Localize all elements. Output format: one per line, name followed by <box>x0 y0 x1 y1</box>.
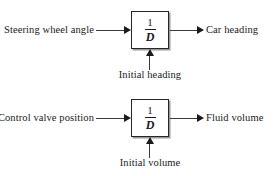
initial-condition-arrowhead-icon-valve <box>146 137 154 144</box>
transfer-function-fraction-steering: 1 D <box>145 17 156 43</box>
initial-condition-label-initial-heading: Initial heading <box>119 69 181 80</box>
output-label-car-heading: Car heading <box>206 24 258 35</box>
input-arrowhead-icon-valve <box>124 114 131 122</box>
diagram-group-steering: Steering wheel angle 1 D Car heading Ini… <box>0 0 278 88</box>
initial-condition-connector-line-steering <box>149 56 150 70</box>
input-label-control-valve-position: Control valve position <box>0 112 94 123</box>
block-diagram-canvas: Steering wheel angle 1 D Car heading Ini… <box>0 0 278 176</box>
output-arrowhead-icon-steering <box>197 26 204 34</box>
fraction-numerator-steering: 1 <box>147 17 153 29</box>
input-label-steering-wheel-angle: Steering wheel angle <box>4 24 94 35</box>
integrator-block-steering: 1 D <box>131 11 169 49</box>
diagram-group-valve: Control valve position 1 D Fluid volume … <box>0 88 278 176</box>
integrator-block-valve: 1 D <box>131 99 169 137</box>
input-connector-line-valve <box>96 118 127 119</box>
initial-condition-arrowhead-icon-steering <box>146 49 154 56</box>
output-connector-line-steering <box>170 30 200 31</box>
fraction-denominator-valve: D <box>146 118 155 131</box>
input-connector-line-steering <box>96 30 127 31</box>
transfer-function-fraction-valve: 1 D <box>145 105 156 131</box>
initial-condition-label-initial-volume: Initial volume <box>120 157 181 168</box>
fraction-denominator-steering: D <box>146 30 155 43</box>
output-connector-line-valve <box>170 118 200 119</box>
input-arrowhead-icon-steering <box>124 26 131 34</box>
initial-condition-connector-line-valve <box>149 144 150 158</box>
fraction-numerator-valve: 1 <box>147 105 153 117</box>
output-label-fluid-volume: Fluid volume <box>206 112 264 123</box>
output-arrowhead-icon-valve <box>197 114 204 122</box>
